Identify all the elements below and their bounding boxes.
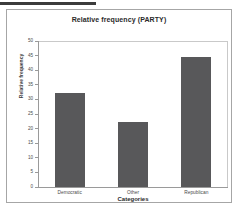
x-axis-label-other: Other — [101, 190, 164, 195]
chart-panel: Relative frequency (PARTY) 0510152025303… — [6, 9, 232, 203]
bar-slot — [164, 42, 227, 187]
y-axis-tick-mark — [35, 70, 38, 71]
y-axis-tick-mark — [35, 187, 38, 188]
y-axis-tick-label: 25 — [28, 110, 33, 118]
bars-layer — [39, 42, 227, 187]
y-axis-tick-mark — [35, 99, 38, 100]
y-axis-tick-mark — [35, 41, 38, 42]
bar-democratic — [55, 93, 85, 187]
y-axis-tick-label: 30 — [28, 95, 33, 103]
y-axis-tick-label: 20 — [28, 125, 33, 133]
chart-title: Relative frequency (PARTY) — [7, 16, 231, 23]
y-axis-tick-label: 45 — [28, 52, 33, 60]
x-axis-label-democratic: Democratic — [38, 190, 101, 195]
y-axis-tick-mark — [35, 114, 38, 115]
y-axis-tick-label: 5 — [30, 168, 33, 176]
bar-slot — [102, 42, 165, 187]
y-axis-tick-label: 15 — [28, 139, 33, 147]
y-axis-tick-label: 35 — [28, 81, 33, 89]
y-axis-tick-label: 0 — [30, 183, 33, 191]
bar-republican — [181, 57, 211, 188]
y-axis-tick-mark — [35, 143, 38, 144]
x-axis-title: Categories — [38, 196, 228, 202]
bar-other — [118, 122, 148, 187]
x-axis-label-republican: Republican — [165, 190, 228, 195]
x-axis-spine — [38, 187, 228, 188]
top-divider-rule — [0, 2, 96, 5]
chart-screenshot: Relative frequency (PARTY) 0510152025303… — [0, 0, 238, 214]
y-axis-tick-mark — [35, 55, 38, 56]
y-axis-tick-label: 50 — [28, 37, 33, 45]
y-axis-tick-mark — [35, 157, 38, 158]
y-axis-tick-mark — [35, 128, 38, 129]
y-axis-title: Relative frequency — [18, 26, 24, 126]
y-axis-tick-label: 10 — [28, 154, 33, 162]
y-axis-tick-mark — [35, 84, 38, 85]
bar-slot — [39, 42, 102, 187]
y-axis-tick-label: 40 — [28, 66, 33, 74]
y-axis-tick-mark — [35, 172, 38, 173]
